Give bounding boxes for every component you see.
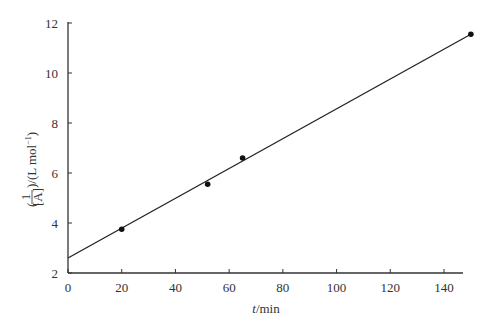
y-tick-label: 2 xyxy=(52,266,59,281)
y-tick-label: 12 xyxy=(45,16,58,31)
svg-text:[A]: [A] xyxy=(30,188,45,206)
plot-area xyxy=(68,31,474,258)
x-tick-label: 80 xyxy=(276,280,289,295)
data-point xyxy=(119,226,125,232)
x-tick-label: 40 xyxy=(169,280,182,295)
x-tick-label: 0 xyxy=(65,280,72,295)
x-tick-label: 20 xyxy=(115,280,128,295)
x-tick-label: 100 xyxy=(327,280,347,295)
x-tick-label: 60 xyxy=(223,280,236,295)
y-tick-label: 6 xyxy=(52,166,59,181)
y-tick-label: 4 xyxy=(52,216,59,231)
svg-text:)/(L mol−1): )/(L mol−1) xyxy=(24,132,39,188)
data-point xyxy=(240,155,246,161)
x-tick-label: 140 xyxy=(434,280,454,295)
data-point xyxy=(205,181,211,187)
y-tick-label: 8 xyxy=(52,116,59,131)
y-axis-label: ( 1 [A] )/(L mol−1) xyxy=(18,132,45,207)
y-tick-label: 10 xyxy=(45,66,58,81)
x-tick-label: 120 xyxy=(381,280,401,295)
chart: 24681012 020406080100120140 t/min ( 1 [A… xyxy=(0,0,491,333)
fit-line xyxy=(68,34,471,258)
data-point xyxy=(468,31,474,37)
x-axis-label: t/min xyxy=(252,301,280,316)
